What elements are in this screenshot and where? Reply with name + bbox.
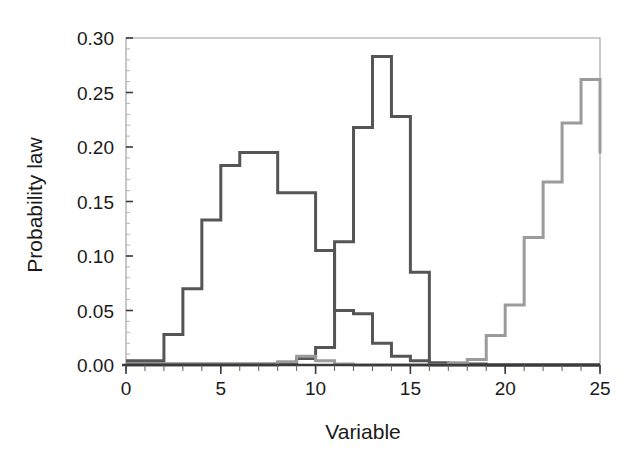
y-axis-title: Probability law	[23, 136, 46, 272]
x-tick-label: 0	[121, 378, 132, 399]
y-tick-label: 0.15	[77, 192, 114, 213]
y-tick-label: 0.05	[77, 301, 114, 322]
chart-canvas: 0.000.050.100.150.200.250.30 0510152025 …	[0, 0, 637, 451]
y-tick-label: 0.20	[77, 137, 114, 158]
x-axis-title: Variable	[325, 420, 401, 443]
y-tick-label: 0.30	[77, 28, 114, 49]
x-tick-label: 20	[495, 378, 516, 399]
x-tick-label: 15	[400, 378, 421, 399]
x-tick-label: 25	[589, 378, 610, 399]
y-tick-label: 0.25	[77, 83, 114, 104]
probability-law-chart: 0.000.050.100.150.200.250.30 0510152025 …	[0, 0, 637, 451]
x-tick-label: 10	[305, 378, 326, 399]
y-tick-label: 0.10	[77, 246, 114, 267]
x-tick-label: 5	[216, 378, 227, 399]
y-tick-label: 0.00	[77, 355, 114, 376]
